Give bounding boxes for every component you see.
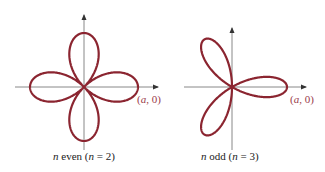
point-label-right: (a, 0): [290, 93, 314, 105]
panel-odd: [184, 28, 306, 150]
point-label-left: (a, 0): [137, 93, 161, 105]
caption-word: odd (: [207, 150, 233, 162]
caption-word: even (: [59, 150, 89, 162]
caption-even: n even (n = 2): [53, 150, 115, 162]
point-label-sep: , 0: [299, 93, 310, 105]
caption-rest: = 2): [94, 150, 115, 162]
panel-even: [15, 15, 158, 150]
caption-rest: = 3): [238, 150, 259, 162]
rose-curves-figure: [0, 0, 325, 172]
caption-odd: n odd (n = 3): [201, 150, 259, 162]
point-label-sep: , 0: [146, 93, 157, 105]
